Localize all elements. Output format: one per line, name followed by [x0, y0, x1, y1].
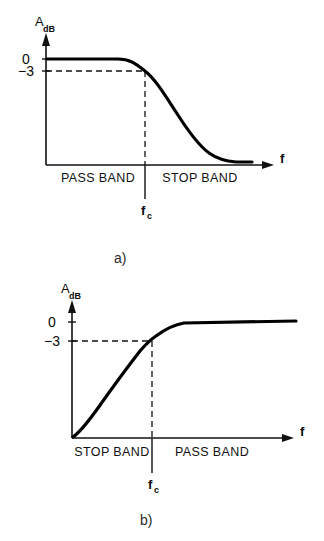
figure-caption-a: a) [114, 250, 126, 266]
y-tick-label-0-b: 0 [48, 314, 56, 330]
figure-b-highpass: A dB f 0 −3 f c STOP BAND PASS BAND b) [0, 270, 324, 541]
figure-caption-b: b) [140, 512, 152, 528]
highpass-response-chart: A dB f 0 −3 f c STOP BAND PASS BAND b) [0, 270, 324, 541]
x-axis-arrow-a [262, 161, 274, 169]
x-axis-label-a: f [280, 151, 285, 166]
lowpass-response-chart: A dB f 0 −3 f c PASS BAND STOP BAND a) [0, 0, 324, 270]
y-tick-label-minus3-a: −3 [18, 63, 34, 79]
y-axis-label-sub-a: dB [43, 24, 55, 34]
cutoff-label-sub-b: c [154, 485, 159, 495]
band-label-stop-a: STOP BAND [162, 171, 237, 185]
cutoff-label-main-b: f [148, 477, 153, 492]
cutoff-label-main-a: f [141, 203, 146, 218]
band-label-pass-b: PASS BAND [175, 445, 249, 459]
y-axis-arrow-a [42, 33, 50, 46]
x-axis-label-b: f [300, 424, 305, 439]
response-curve-b [73, 321, 296, 437]
figure-a-lowpass: A dB f 0 −3 f c PASS BAND STOP BAND a) [0, 0, 324, 270]
y-axis-label-sub-b: dB [69, 291, 81, 301]
x-axis-arrow-b [282, 434, 294, 442]
band-label-stop-b: STOP BAND [74, 445, 149, 459]
y-tick-label-minus3-b: −3 [44, 333, 60, 349]
cutoff-label-sub-a: c [147, 211, 152, 221]
y-axis-arrow-b [68, 300, 76, 313]
response-curve-a [47, 59, 252, 162]
band-label-pass-a: PASS BAND [61, 171, 135, 185]
